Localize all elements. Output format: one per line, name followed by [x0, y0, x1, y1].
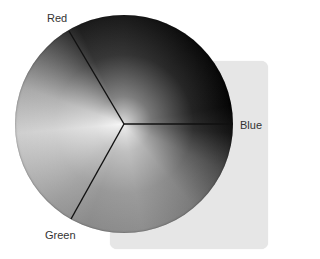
label-green: Green: [45, 230, 76, 241]
label-blue: Blue: [240, 120, 262, 131]
divider-blue-green: [71, 124, 124, 219]
label-red: Red: [47, 13, 67, 24]
divider-red-green: [69, 31, 124, 124]
